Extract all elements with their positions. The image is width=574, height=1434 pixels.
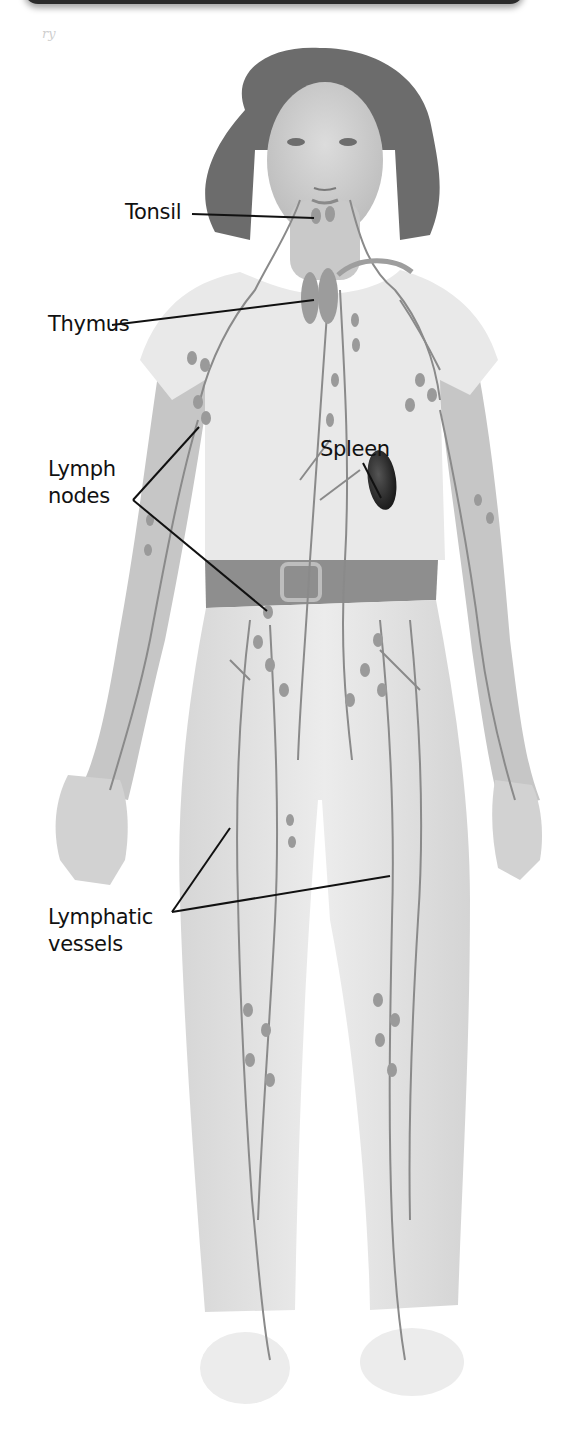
label-lymph-nodes: Lymph nodes [48, 456, 116, 510]
label-spleen: Spleen [320, 436, 390, 463]
label-lymph-nodes-line1: Lymph [48, 456, 116, 483]
shoes [200, 1328, 464, 1404]
lymphatic-system-figure [0, 0, 574, 1434]
pants [179, 600, 470, 1312]
label-lymph-nodes-line2: nodes [48, 483, 116, 510]
label-tonsil-text: Tonsil [125, 199, 181, 226]
label-spleen-text: Spleen [320, 436, 390, 463]
label-tonsil: Tonsil [125, 199, 181, 226]
label-thymus: Thymus [48, 311, 129, 338]
label-lymphatic-vessels-line1: Lymphatic [48, 904, 153, 931]
label-thymus-text: Thymus [48, 311, 129, 338]
belt [205, 560, 438, 608]
label-lymphatic-vessels: Lymphatic vessels [48, 904, 153, 958]
label-lymphatic-vessels-line2: vessels [48, 931, 153, 958]
